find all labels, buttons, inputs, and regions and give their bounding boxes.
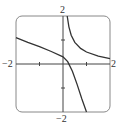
y-min-label: −2 [56, 114, 67, 124]
function-graph [0, 0, 120, 127]
curve-lower-branch [16, 38, 87, 112]
x-min-label: −2 [2, 59, 13, 69]
y-max-label: 2 [60, 5, 65, 15]
x-max-label: 2 [111, 59, 116, 69]
curve-upper-branch [67, 16, 110, 59]
